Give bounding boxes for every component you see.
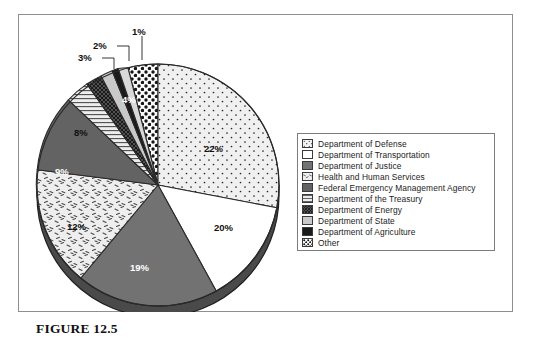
legend-label-other: Other bbox=[318, 238, 339, 248]
slice-label-defense: 22% bbox=[204, 143, 223, 154]
slice-label-treasury: 8% bbox=[74, 127, 88, 138]
legend: Department of Defense Department of Tran… bbox=[297, 133, 495, 251]
legend-swatch-justice-icon bbox=[302, 161, 313, 170]
legend-item-transportation[interactable]: Department of Transportation bbox=[302, 149, 494, 160]
legend-swatch-transportation-icon bbox=[302, 150, 313, 159]
leader-lines bbox=[102, 36, 142, 69]
legend-item-fema[interactable]: Federal Emergency Management Agency bbox=[302, 182, 494, 193]
slice-defense bbox=[158, 64, 279, 208]
slice-label-hhs: 12% bbox=[67, 221, 86, 232]
pie-chart: 22% 20% 19% 12% 9% 8% 4% 3% 2% 1% bbox=[18, 14, 298, 312]
legend-swatch-other-icon bbox=[302, 238, 313, 247]
legend-item-energy[interactable]: Department of Energy bbox=[302, 204, 494, 215]
figure-container: 22% 20% 19% 12% 9% 8% 4% 3% 2% 1% Depart… bbox=[0, 0, 533, 344]
slice-label-agriculture: 1% bbox=[132, 26, 146, 37]
legend-swatch-treasury-icon bbox=[302, 194, 313, 203]
legend-item-other[interactable]: Other bbox=[302, 237, 494, 248]
pie-slices bbox=[36, 64, 279, 306]
slice-label-justice: 19% bbox=[130, 262, 149, 273]
slice-label-fema: 9% bbox=[55, 166, 69, 177]
legend-swatch-energy-icon bbox=[302, 205, 313, 214]
legend-label-defense: Department of Defense bbox=[318, 139, 407, 149]
legend-label-agriculture: Department of Agriculture bbox=[318, 227, 415, 237]
legend-label-transportation: Department of Transportation bbox=[318, 150, 430, 160]
legend-label-hhs: Health and Human Services bbox=[318, 172, 425, 182]
legend-swatch-agriculture-icon bbox=[302, 227, 313, 236]
pie-svg bbox=[18, 14, 298, 312]
legend-label-justice: Department of Justice bbox=[318, 161, 402, 171]
slice-label-other: 4% bbox=[122, 94, 136, 105]
slice-label-transportation: 20% bbox=[214, 222, 233, 233]
legend-item-agriculture[interactable]: Department of Agriculture bbox=[302, 226, 494, 237]
legend-swatch-hhs-icon bbox=[302, 172, 313, 181]
legend-item-treasury[interactable]: Department of the Treasury bbox=[302, 193, 494, 204]
legend-swatch-state-icon bbox=[302, 216, 313, 225]
legend-swatch-defense-icon bbox=[302, 139, 313, 148]
legend-label-energy: Department of Energy bbox=[318, 205, 402, 215]
legend-item-hhs[interactable]: Health and Human Services bbox=[302, 171, 494, 182]
legend-label-fema: Federal Emergency Management Agency bbox=[318, 183, 476, 193]
legend-label-treasury: Department of the Treasury bbox=[318, 194, 423, 204]
slice-label-state: 2% bbox=[93, 40, 107, 51]
legend-label-state: Department of State bbox=[318, 216, 395, 226]
figure-caption: FIGURE 12.5 bbox=[36, 321, 118, 337]
legend-item-defense[interactable]: Department of Defense bbox=[302, 138, 494, 149]
legend-item-state[interactable]: Department of State bbox=[302, 215, 494, 226]
slice-label-energy: 3% bbox=[78, 52, 92, 63]
legend-item-justice[interactable]: Department of Justice bbox=[302, 160, 494, 171]
legend-swatch-fema-icon bbox=[302, 183, 313, 192]
